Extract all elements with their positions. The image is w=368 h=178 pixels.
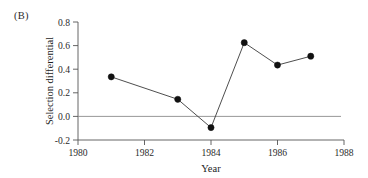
x-tick-label: 1980: [68, 147, 87, 158]
y-tick-label: 0.4: [58, 64, 70, 75]
x-tick-label: 1984: [201, 147, 220, 158]
y-tick-label: 0.0: [58, 111, 70, 122]
y-tick-label: 0.8: [58, 17, 70, 28]
x-tick-label: 1988: [334, 147, 353, 158]
data-point: [208, 125, 214, 131]
y-tick-label: 0.2: [58, 87, 70, 98]
x-tick-labels: 1980 1982 1984 1986 1988: [68, 147, 353, 158]
data-point: [274, 62, 280, 68]
y-tick-labels: 0.8 0.6 0.4 0.2 0.0 -0.2: [55, 17, 70, 146]
y-tick-label: 0.6: [58, 40, 70, 51]
x-axis-title: Year: [201, 163, 221, 174]
series-markers: [108, 40, 314, 131]
x-tick-label: 1982: [135, 147, 154, 158]
figure-panel-b: (B) 0.8 0.6 0.4 0.2 0.0 -0.2: [0, 0, 368, 178]
data-point: [308, 53, 314, 59]
y-tick-label: -0.2: [55, 135, 70, 146]
data-point: [241, 40, 247, 46]
series-line: [111, 43, 311, 128]
x-tick-label: 1986: [268, 147, 287, 158]
x-tick-marks: [78, 140, 344, 145]
y-tick-marks: [73, 22, 78, 140]
line-chart: 0.8 0.6 0.4 0.2 0.0 -0.2 1980 1982 1984 …: [0, 0, 368, 178]
data-point: [175, 96, 181, 102]
data-point: [108, 74, 114, 80]
y-axis-title: Selection differential: [44, 37, 55, 125]
